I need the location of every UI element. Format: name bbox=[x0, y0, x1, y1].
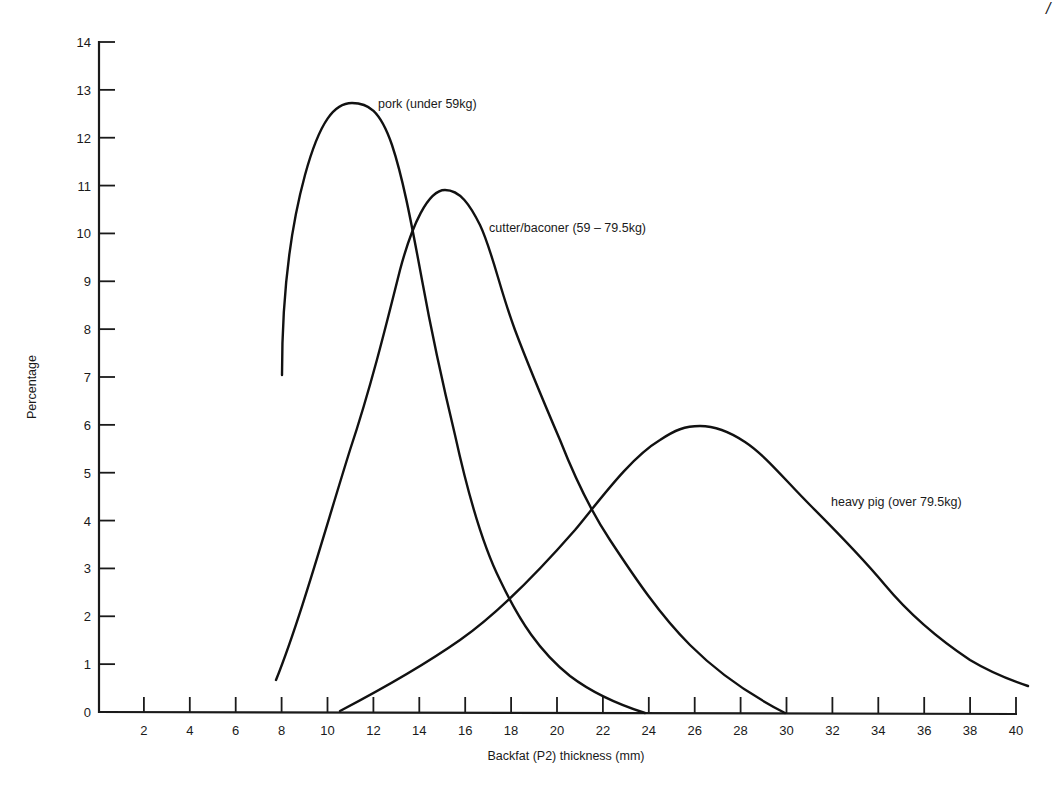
x-tick-label: 18 bbox=[504, 723, 518, 738]
y-tick-label: 6 bbox=[84, 418, 91, 433]
y-axis-ticks: 01234567891011121314 bbox=[77, 35, 115, 720]
y-tick-label: 2 bbox=[84, 609, 91, 624]
x-axis: 246810121416182022242628303234363840 bbox=[98, 697, 1023, 738]
x-tick-label: 14 bbox=[412, 723, 426, 738]
y-tick-label: 10 bbox=[77, 226, 91, 241]
x-tick-label: 28 bbox=[733, 723, 747, 738]
x-tick-label: 38 bbox=[963, 723, 977, 738]
series-label-heavy: heavy pig (over 79.5kg) bbox=[831, 495, 962, 509]
x-tick-label: 16 bbox=[458, 723, 472, 738]
x-tick-label: 34 bbox=[871, 723, 885, 738]
x-tick-label: 30 bbox=[779, 723, 793, 738]
y-tick-label: 12 bbox=[77, 131, 91, 146]
y-tick-label: 14 bbox=[77, 35, 91, 50]
x-tick-label: 36 bbox=[917, 723, 931, 738]
x-tick-label: 12 bbox=[366, 723, 380, 738]
y-tick-label: 11 bbox=[78, 179, 92, 194]
x-tick-label: 32 bbox=[825, 723, 839, 738]
series-label-pork: pork (under 59kg) bbox=[378, 97, 477, 111]
y-tick-label: 0 bbox=[84, 705, 91, 720]
y-tick-label: 9 bbox=[84, 274, 91, 289]
y-tick-label: 13 bbox=[77, 83, 91, 98]
page-corner-mark: / bbox=[1045, 0, 1052, 17]
x-tick-label: 22 bbox=[596, 723, 610, 738]
x-tick-label: 2 bbox=[140, 723, 147, 738]
x-tick-label: 24 bbox=[642, 723, 656, 738]
x-tick-label: 10 bbox=[320, 723, 334, 738]
series-line-heavy bbox=[340, 426, 1028, 711]
x-tick-label: 40 bbox=[1009, 723, 1023, 738]
y-tick-label: 1 bbox=[84, 657, 91, 672]
y-tick-label: 4 bbox=[84, 514, 91, 529]
x-axis-ticks: 246810121416182022242628303234363840 bbox=[140, 697, 1023, 738]
y-axis-title: Percentage bbox=[25, 355, 39, 419]
x-tick-label: 26 bbox=[687, 723, 701, 738]
x-tick-label: 20 bbox=[550, 723, 564, 738]
y-tick-label: 3 bbox=[84, 561, 91, 576]
x-axis-title: Backfat (P2) thickness (mm) bbox=[488, 749, 645, 763]
y-tick-label: 7 bbox=[84, 370, 91, 385]
backfat-distribution-chart: / 01234567891011121314 24681012141618202… bbox=[0, 0, 1054, 801]
y-tick-label: 8 bbox=[84, 322, 91, 337]
series-line-pork bbox=[282, 103, 645, 713]
x-tick-label: 6 bbox=[232, 723, 239, 738]
series-curves bbox=[276, 103, 1028, 713]
x-tick-label: 4 bbox=[186, 723, 193, 738]
series-label-cutter: cutter/baconer (59 – 79.5kg) bbox=[489, 221, 646, 235]
y-tick-label: 5 bbox=[84, 466, 91, 481]
y-axis: 01234567891011121314 bbox=[77, 35, 115, 720]
x-tick-label: 8 bbox=[278, 723, 285, 738]
